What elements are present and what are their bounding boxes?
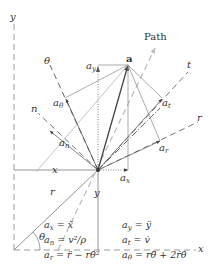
origin-dot	[96, 168, 100, 172]
point-a-label: a	[126, 54, 132, 64]
equation-ay: ay = ÿ	[122, 220, 151, 232]
equation-an: an = v²/ρ	[44, 235, 86, 247]
y-dimension-label: y	[94, 188, 100, 198]
t-axis-label: t	[187, 60, 191, 70]
a-r-label: ar	[159, 143, 168, 155]
a-n-label: an	[59, 138, 69, 150]
a-t-label: at	[162, 98, 171, 110]
equation-at: at = v̇	[122, 235, 150, 247]
n-axis-label: n	[31, 104, 37, 114]
x-dimension-label: x	[52, 165, 58, 175]
a-x-label: ax	[120, 173, 130, 185]
an-to-a	[36, 65, 128, 172]
a-r-arrow	[98, 141, 160, 170]
r-axis-label-upper: r	[197, 113, 202, 123]
ay-arrowhead	[96, 66, 100, 72]
a-theta-arrow	[66, 99, 98, 170]
atheta-to-a	[65, 65, 128, 98]
x-axis-label: x	[198, 244, 204, 254]
kinematics-diagram	[0, 0, 217, 269]
a-y-label: ay	[86, 61, 96, 73]
theta-axis-label: θ	[44, 56, 50, 66]
equation-atheta: aθ = rθ̈ + 2ṙθ̇	[122, 250, 186, 262]
ar-to-a	[128, 65, 160, 141]
r-radius-label: r	[50, 187, 55, 197]
y-axis-label: y	[10, 12, 16, 22]
path-label: Path	[144, 32, 167, 42]
equation-ax: ax = ẍ	[44, 220, 73, 232]
equation-ar: ar = r̈ − rθ̇²	[44, 250, 100, 262]
a-theta-label: aθ	[53, 98, 63, 110]
